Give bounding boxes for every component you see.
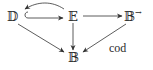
node-b-arrow: 𝔹→ bbox=[124, 10, 142, 23]
node-b: 𝔹 bbox=[68, 51, 79, 64]
node-d: 𝔻 bbox=[7, 10, 18, 23]
node-b-arrow-sup: → bbox=[135, 8, 142, 17]
node-e: 𝔼 bbox=[68, 10, 78, 23]
node-e-label: 𝔼 bbox=[68, 9, 78, 24]
node-b-label: 𝔹 bbox=[68, 50, 79, 65]
edge-label-cod: cod bbox=[109, 42, 126, 54]
node-b-arrow-label: 𝔹 bbox=[124, 9, 135, 24]
arrow-e-to-d-curved bbox=[25, 3, 64, 9]
arrow-d-to-e-hook bbox=[25, 12, 63, 18]
commutative-diagram: 𝔻 𝔼 𝔹→ 𝔹 cod bbox=[0, 0, 153, 70]
node-d-label: 𝔻 bbox=[7, 9, 18, 24]
arrow-d-to-b bbox=[18, 24, 64, 52]
